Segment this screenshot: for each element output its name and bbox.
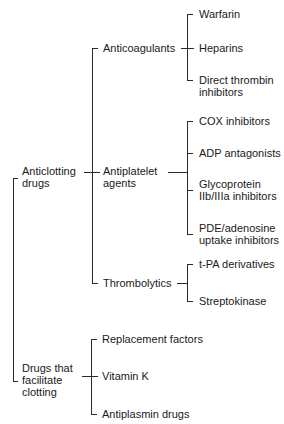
anticlotting-bracket-vertical xyxy=(92,48,93,284)
anticlotting-bracket-top-tick xyxy=(92,48,98,49)
node-label: facilitate xyxy=(22,374,73,386)
node-drugs-that-facilitate-clotting: Drugs that facilitate clotting xyxy=(22,362,73,398)
leaf-cox-inhibitors: COX inhibitors xyxy=(199,115,270,127)
node-label: Anticlotting xyxy=(22,165,76,177)
node-label: drugs xyxy=(22,177,76,189)
root-bracket-vertical xyxy=(13,178,14,382)
anticoagulants-tick-3 xyxy=(187,80,193,81)
leaf-replacement-factors: Replacement factors xyxy=(102,333,203,345)
node-label: Drugs that xyxy=(22,362,73,374)
leaf-label: Glycoprotein xyxy=(199,178,277,190)
antiplatelet-tick-2 xyxy=(187,153,193,154)
antiplatelet-bracket-vertical xyxy=(187,121,188,235)
leaf-label: IIb/IIIa inhibitors xyxy=(199,190,277,202)
leaf-tpa-derivatives: t-PA derivatives xyxy=(199,258,275,270)
node-antiplatelet-agents: Antiplatelet agents xyxy=(103,165,157,189)
leaf-streptokinase: Streptokinase xyxy=(199,295,266,307)
leaf-antiplasmin-drugs: Antiplasmin drugs xyxy=(102,408,189,420)
facilitate-tick-3 xyxy=(91,414,97,415)
leaf-warfarin: Warfarin xyxy=(199,8,240,20)
connector-antiplatelet xyxy=(168,172,187,173)
antiplatelet-tick-4 xyxy=(187,234,193,235)
anticoagulants-bracket-vertical xyxy=(187,14,188,81)
root-bracket-top-tick xyxy=(13,178,18,179)
leaf-label: Direct thrombin xyxy=(199,74,274,86)
antiplatelet-tick-3 xyxy=(187,190,193,191)
leaf-label: uptake inhibitors xyxy=(199,234,279,246)
node-label: agents xyxy=(103,177,157,189)
thrombolytics-bracket-vertical xyxy=(187,264,188,302)
thrombolytics-tick-2 xyxy=(187,301,193,302)
leaf-glycoprotein-inhibitors: Glycoprotein IIb/IIIa inhibitors xyxy=(199,178,277,202)
node-label: Antiplatelet xyxy=(103,165,157,177)
facilitate-tick-1 xyxy=(91,339,97,340)
root-bracket-bottom-tick xyxy=(13,381,18,382)
facilitate-bracket-vertical xyxy=(91,339,92,415)
leaf-pde-adenosine-uptake-inhibitors: PDE/adenosine uptake inhibitors xyxy=(199,222,279,246)
leaf-direct-thrombin-inhibitors: Direct thrombin inhibitors xyxy=(199,74,274,98)
thrombolytics-tick-1 xyxy=(187,264,193,265)
node-anticlotting-drugs: Anticlotting drugs xyxy=(22,165,76,189)
node-label: clotting xyxy=(22,386,73,398)
leaf-vitamin-k: Vitamin K xyxy=(102,370,149,382)
connector-facilitate-clotting xyxy=(82,376,98,377)
leaf-heparins: Heparins xyxy=(199,42,243,54)
leaf-adp-antagonists: ADP antagonists xyxy=(199,147,281,159)
node-thrombolytics: Thrombolytics xyxy=(103,277,171,289)
anticlotting-bracket-bottom-tick xyxy=(92,283,98,284)
node-anticoagulants: Anticoagulants xyxy=(103,42,175,54)
leaf-label: inhibitors xyxy=(199,86,274,98)
antiplatelet-tick-1 xyxy=(187,121,193,122)
leaf-label: PDE/adenosine xyxy=(199,222,279,234)
anticoagulants-tick-1 xyxy=(187,14,193,15)
connector-thrombolytics xyxy=(177,283,187,284)
